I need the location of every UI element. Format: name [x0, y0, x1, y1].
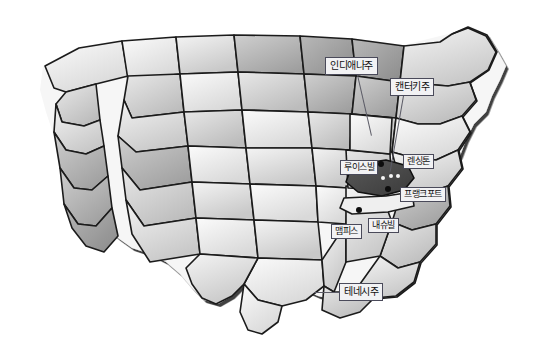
callout-lexington[interactable]: 렌싱톤	[403, 154, 434, 169]
callout-kentucky-label: 캔터키주	[395, 81, 429, 92]
callout-tennessee[interactable]: 테네시주	[339, 283, 383, 301]
callout-frankfort-label: 프랭크포트	[404, 189, 442, 199]
callout-indiana[interactable]: 인디애나주	[325, 57, 378, 75]
callout-indiana-label: 인디애나주	[330, 60, 373, 71]
us-map-illustration	[0, 0, 550, 356]
callout-kentucky[interactable]: 캔터키주	[390, 78, 434, 96]
callout-lexington-label: 렌싱톤	[407, 156, 430, 166]
callout-memphis-label: 맴피스	[335, 226, 358, 236]
city-marker-louisville	[378, 161, 384, 167]
city-marker-nashville	[356, 207, 362, 213]
callout-louisville[interactable]: 루이스빌	[340, 160, 378, 175]
city-marker-frankfort	[385, 186, 391, 192]
city-marker-lexington-c	[396, 174, 400, 178]
leader-line-tennessee	[314, 292, 340, 293]
city-marker-lexington-a	[381, 176, 385, 180]
callout-nashville[interactable]: 내슈빌	[368, 218, 399, 233]
callout-frankfort[interactable]: 프랭크포트	[400, 187, 446, 202]
city-marker-lexington-b	[389, 174, 393, 178]
map-figure: 인디애나주 캔터키주 테네시주 루이스빌 렌싱톤 프랭크포트 내슈빌 맴피스	[0, 0, 550, 356]
callout-memphis[interactable]: 맴피스	[331, 224, 362, 239]
callout-tennessee-label: 테네시주	[344, 286, 378, 297]
callout-nashville-label: 내슈빌	[372, 220, 395, 230]
callout-louisville-label: 루이스빌	[344, 162, 374, 172]
